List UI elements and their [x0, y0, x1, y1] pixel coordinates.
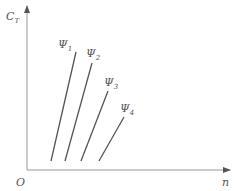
- curve-label-psi-2: Ψ2: [86, 47, 101, 62]
- curve-psi-4: [99, 117, 124, 161]
- diagram-canvas: Ψ1Ψ2Ψ3Ψ4 CT O n: [0, 0, 236, 191]
- curve-group: Ψ1Ψ2Ψ3Ψ4: [51, 38, 134, 161]
- curve-label-psi-3: Ψ3: [104, 76, 119, 91]
- x-axis-label: n: [222, 176, 229, 189]
- y-axis-label: CT: [6, 10, 20, 25]
- curve-psi-1: [51, 52, 76, 161]
- curve-label-psi-4: Ψ4: [120, 102, 134, 117]
- curve-psi-2: [65, 63, 92, 161]
- origin-label: O: [16, 176, 25, 189]
- curve-psi-3: [81, 91, 108, 161]
- curve-label-psi-1: Ψ1: [58, 38, 72, 53]
